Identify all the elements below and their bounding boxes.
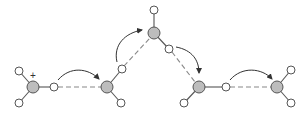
hydrogen-atom <box>15 67 23 75</box>
hydrogen-atom <box>15 99 23 107</box>
covalent-bonds <box>19 10 291 103</box>
oxygen-atom <box>101 81 113 93</box>
hydrogen-atom <box>150 6 158 14</box>
hydrogen-atom <box>180 99 188 107</box>
hydrogen-atom <box>165 45 173 53</box>
hydrogen-atom <box>117 99 125 107</box>
hydrogen-bonds <box>58 38 271 87</box>
positive-charge-label: + <box>30 70 36 81</box>
oxygen-atom <box>27 81 39 93</box>
oxygen-atom <box>193 81 205 93</box>
hydrogen-atom <box>287 66 295 74</box>
hydrogen-atom <box>287 99 295 107</box>
proton-transfer-diagram: + <box>0 0 305 117</box>
atoms <box>15 6 295 107</box>
hydrogen-atom <box>118 65 126 73</box>
transfer-arrows <box>58 30 272 80</box>
oxygen-atom <box>271 81 283 93</box>
hydrogen-atom <box>222 83 230 91</box>
oxygen-atom <box>148 27 160 39</box>
hydrogen-atom <box>50 83 58 91</box>
